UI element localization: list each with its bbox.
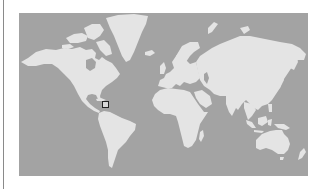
sumatra [246, 120, 256, 128]
left-divider-line [3, 0, 4, 189]
south-america [98, 111, 136, 168]
world-map[interactable]: Caribbean Sea [19, 13, 308, 176]
iceland [145, 50, 155, 56]
square-marker-icon[interactable] [102, 101, 109, 108]
new-zealand [298, 148, 306, 160]
arctic-islands [66, 33, 88, 43]
australia [256, 130, 290, 154]
java [254, 130, 264, 133]
novaya-zemlya [208, 22, 218, 34]
sulawesi [268, 119, 272, 126]
world-map-svg [19, 13, 308, 176]
tasmania [280, 157, 284, 160]
scandinavia [176, 42, 200, 64]
baffin-island [96, 40, 112, 56]
borneo [258, 116, 268, 126]
new-guinea [274, 124, 290, 130]
great-britain [160, 62, 166, 74]
severnaya-zemlya [240, 26, 250, 34]
philippines [268, 104, 272, 112]
asia [196, 36, 306, 110]
arctic-islands-3 [62, 44, 74, 49]
madagascar [199, 130, 204, 142]
greenland [106, 14, 148, 62]
